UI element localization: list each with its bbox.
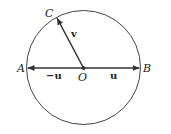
label-neg-u: −u (46, 70, 62, 81)
origin-dot (82, 66, 86, 70)
label-u: u (110, 70, 117, 81)
label-v: v (70, 28, 78, 39)
vector-v (57, 18, 84, 68)
label-o: O (78, 71, 87, 84)
label-a: A (16, 62, 25, 75)
label-b: B (142, 62, 151, 75)
label-c: C (45, 7, 54, 20)
circle-vector-diagram: A B C O −u u v (0, 0, 171, 134)
